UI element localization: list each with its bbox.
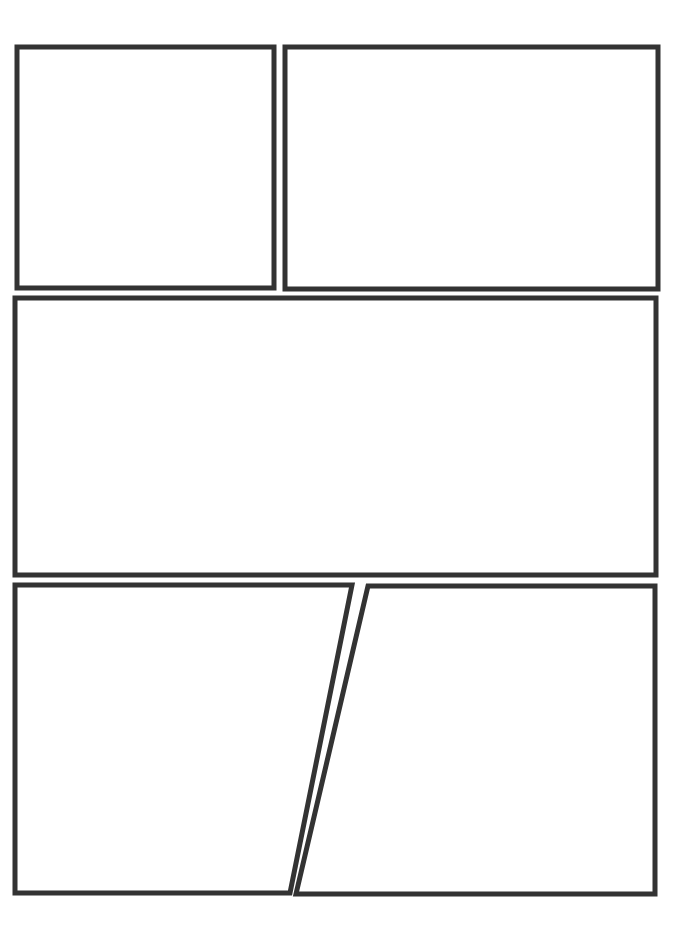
panel-1 xyxy=(17,47,274,288)
comic-page: Panel 1 Panel 2 Panel 3 Panel 4 Panel 5 xyxy=(0,0,695,933)
panel-layout xyxy=(0,0,695,933)
panel-3 xyxy=(15,298,656,575)
panel-4 xyxy=(15,585,352,893)
panel-5 xyxy=(296,586,655,894)
panel-2 xyxy=(285,47,658,289)
